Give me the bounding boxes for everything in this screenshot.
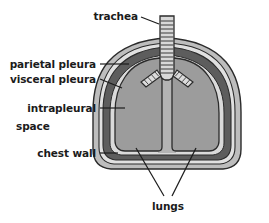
label-lungs: lungs: [138, 200, 198, 212]
diagram-canvas: trachea parietal pleura visceral pleura …: [0, 0, 269, 223]
trachea-shape: [160, 16, 174, 80]
label-intrapleural-space-line2: space: [0, 120, 96, 132]
label-chest-wall: chest wall: [0, 147, 96, 159]
label-visceral-pleura: visceral pleura: [0, 73, 96, 85]
label-intrapleural-space-line1: intrapleural: [0, 102, 96, 114]
label-trachea: trachea: [12, 10, 138, 22]
label-parietal-pleura: parietal pleura: [0, 58, 96, 70]
leader-line-trachea: [141, 17, 159, 24]
label-intrapleural-space-line2-wrap: space: [0, 120, 96, 132]
